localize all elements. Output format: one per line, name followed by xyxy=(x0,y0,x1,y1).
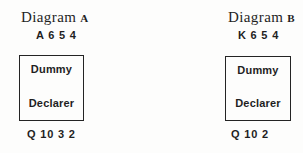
declarer-label: Declarer xyxy=(29,97,75,110)
north-holding: K 6 5 4 xyxy=(238,29,279,42)
table-box: Dummy Declarer xyxy=(19,55,84,121)
diagram-title-word: Diagram xyxy=(228,9,283,25)
table-box: Dummy Declarer xyxy=(225,56,291,121)
south-holding: Q 10 3 2 xyxy=(27,128,76,141)
dummy-label: Dummy xyxy=(31,63,72,76)
declarer-label: Declarer xyxy=(235,97,281,110)
diagram-title: DiagramB xyxy=(228,10,295,26)
page: DiagramA A 6 5 4 Dummy Declarer Q 10 3 2… xyxy=(0,0,303,153)
north-holding: A 6 5 4 xyxy=(36,29,77,42)
diagram-title-word: Diagram xyxy=(21,9,76,25)
south-holding: Q 10 2 xyxy=(231,128,269,141)
diagram-title-letter: B xyxy=(287,12,295,24)
diagram-title-letter: A xyxy=(80,12,88,24)
dummy-label: Dummy xyxy=(237,64,278,77)
diagram-title: DiagramA xyxy=(21,10,89,26)
